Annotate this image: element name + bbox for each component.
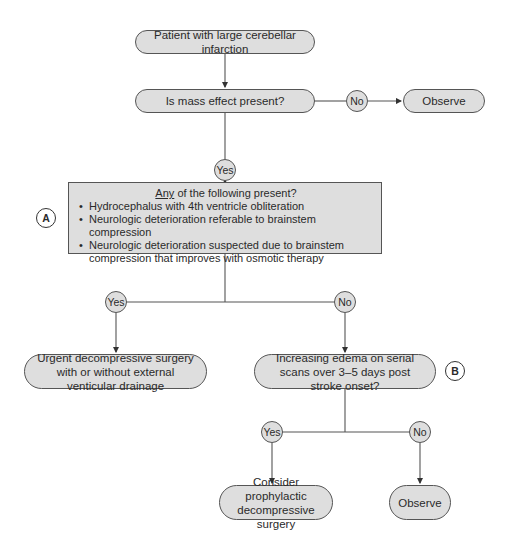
mass-effect-decision: Is mass effect present? (135, 89, 315, 113)
observe-label: Observe (398, 496, 441, 510)
start-node: Patient with large cerebellar infarction (135, 30, 315, 54)
yes-branch-3: Yes (261, 421, 283, 443)
connector-lines (0, 0, 505, 550)
criteria-item: Neurologic deterioration referable to br… (89, 213, 375, 239)
prophylactic-surgery-node: Consider prophylactic decompressive surg… (219, 485, 333, 520)
marker-a: A (36, 208, 56, 228)
observe-label: Observe (422, 94, 465, 108)
start-node-label: Patient with large cerebellar infarction (136, 28, 314, 56)
marker-a-label: A (42, 212, 50, 224)
no-branch-3: No (409, 421, 431, 443)
observe-node-1: Observe (403, 89, 485, 113)
criteria-title-emphasis: Any (155, 187, 174, 199)
criteria-title: Any of the following present? (77, 187, 375, 200)
criteria-item: Neurologic deterioration suspected due t… (89, 239, 375, 265)
increasing-edema-decision: Increasing edema on serial scans over 3–… (254, 354, 436, 389)
criteria-box: Any of the following present? Hydrocepha… (68, 182, 382, 254)
prophylactic-label: Consider prophylactic decompressive surg… (224, 475, 328, 531)
no-label: No (413, 426, 426, 438)
yes-label: Yes (216, 164, 233, 176)
observe-node-2: Observe (389, 485, 451, 520)
urgent-surgery-label: Urgent decompressive surgery with or wit… (33, 351, 198, 393)
yes-label: Yes (107, 296, 124, 308)
yes-branch-1: Yes (214, 159, 236, 181)
marker-b: B (445, 361, 465, 381)
no-label: No (338, 296, 351, 308)
no-branch-1: No (346, 90, 368, 112)
urgent-surgery-node: Urgent decompressive surgery with or wit… (24, 354, 207, 389)
mass-effect-label: Is mass effect present? (166, 94, 285, 108)
yes-branch-2: Yes (105, 291, 127, 313)
no-branch-2: No (334, 291, 356, 313)
marker-b-label: B (451, 365, 459, 377)
no-label: No (350, 95, 363, 107)
increasing-edema-label: Increasing edema on serial scans over 3–… (269, 351, 421, 393)
criteria-list: Hydrocephalus with 4th ventricle obliter… (77, 200, 375, 265)
criteria-item: Hydrocephalus with 4th ventricle obliter… (89, 200, 375, 213)
criteria-title-rest: of the following present? (174, 187, 296, 199)
yes-label: Yes (263, 426, 280, 438)
